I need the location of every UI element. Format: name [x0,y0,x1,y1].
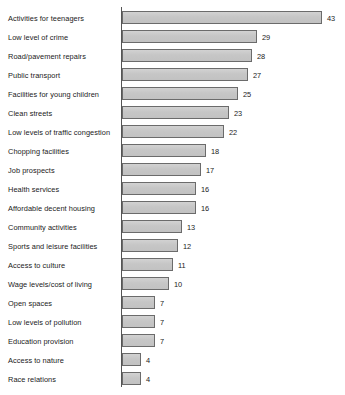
bar-row: Chopping facilities18 [0,141,345,160]
bar [122,87,238,100]
bar-fill [123,259,172,270]
category-label: Education provision [8,336,73,345]
bar-row: Clean streets23 [0,103,345,122]
category-label: Affordable decent housing [8,203,95,212]
category-label: Community activities [8,222,77,231]
bar [122,201,196,214]
bar-row: Health services16 [0,179,345,198]
bar [122,372,141,385]
category-label: Access to nature [8,355,64,364]
bar-fill [123,88,237,99]
value-label: 4 [146,374,150,383]
bar-row: Affordable decent housing16 [0,198,345,217]
bar-row: Sports and leisure facilities12 [0,236,345,255]
bar [122,11,322,24]
bar [122,106,229,119]
bar-fill [123,50,251,61]
category-label: Job prospects [8,165,55,174]
bar-row: Access to nature4 [0,350,345,369]
value-label: 27 [253,70,261,79]
bar-fill [123,183,195,194]
value-label: 16 [201,203,209,212]
bar-fill [123,145,205,156]
category-label: Race relations [8,374,56,383]
bar-row: Community activities13 [0,217,345,236]
category-label: Low levels of traffic congestion [8,127,110,136]
value-label: 7 [160,336,164,345]
bar-row: Road/pavement repairs28 [0,46,345,65]
value-label: 28 [257,51,265,60]
bar-fill [123,297,154,308]
bar-row: Facilities for young children25 [0,84,345,103]
value-label: 4 [146,355,150,364]
bar-row: Race relations4 [0,369,345,388]
value-label: 23 [234,108,242,117]
bar [122,258,173,271]
category-label: Sports and leisure facilities [8,241,97,250]
bar [122,144,206,157]
category-label: Access to culture [8,260,65,269]
category-label: Facilities for young children [8,89,99,98]
bar [122,220,182,233]
value-label: 10 [174,279,182,288]
bar-fill [123,31,256,42]
plot-area: Activities for teenagers43Low level of c… [0,0,345,395]
bar-row: Access to culture11 [0,255,345,274]
category-label: Public transport [8,70,60,79]
bar-fill [123,202,195,213]
bar-chart: Activities for teenagers43Low level of c… [0,0,345,395]
bar [122,239,178,252]
bar-row: Public transport27 [0,65,345,84]
bar-fill [123,107,228,118]
bar-fill [123,354,140,365]
category-label: Road/pavement repairs [8,51,86,60]
bar [122,353,141,366]
bar [122,125,224,138]
bar [122,30,257,43]
category-label: Low level of crime [8,32,68,41]
bar-row: Low levels of traffic congestion22 [0,122,345,141]
bar-fill [123,69,247,80]
bar-row: Job prospects17 [0,160,345,179]
category-label: Clean streets [8,108,52,117]
bar-fill [123,240,177,251]
bar-row: Wage levels/cost of living10 [0,274,345,293]
bar [122,68,248,81]
bar-row: Low level of crime29 [0,27,345,46]
bar-fill [123,221,181,232]
category-label: Low levels of pollution [8,317,81,326]
bar-fill [123,12,321,23]
bar-fill [123,316,154,327]
category-label: Activities for teenagers [8,13,84,22]
value-label: 25 [243,89,251,98]
value-label: 7 [160,317,164,326]
bar [122,277,169,290]
bar-row: Open spaces7 [0,293,345,312]
bar-row: Activities for teenagers43 [0,8,345,27]
value-label: 22 [229,127,237,136]
category-label: Health services [8,184,59,193]
value-label: 17 [206,165,214,174]
value-label: 12 [183,241,191,250]
value-label: 16 [201,184,209,193]
bar [122,334,155,347]
value-label: 29 [262,32,270,41]
value-label: 43 [327,13,335,22]
category-label: Chopping facilities [8,146,69,155]
bar-row: Low levels of pollution7 [0,312,345,331]
value-label: 7 [160,298,164,307]
bar-row: Education provision7 [0,331,345,350]
value-label: 18 [211,146,219,155]
bar [122,49,252,62]
category-label: Wage levels/cost of living [8,279,92,288]
bar [122,163,201,176]
bar-fill [123,335,154,346]
bar-fill [123,164,200,175]
bar-fill [123,373,140,384]
bar-fill [123,126,223,137]
bar [122,315,155,328]
category-label: Open spaces [8,298,52,307]
bar-fill [123,278,168,289]
bar [122,296,155,309]
value-label: 11 [178,260,186,269]
